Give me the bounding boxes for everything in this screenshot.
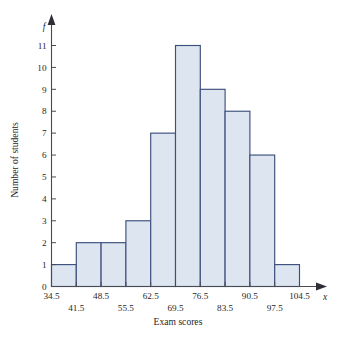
x-axis-tick-label: 104.5 bbox=[289, 291, 310, 301]
x-axis-tick-label: 41.5 bbox=[68, 303, 84, 313]
histogram-bar bbox=[225, 111, 250, 286]
exam-scores-histogram: 01234567891011 34.548.562.576.590.5104.5… bbox=[0, 0, 342, 337]
histogram-figure: 01234567891011 34.548.562.576.590.5104.5… bbox=[0, 0, 342, 337]
x-axis-tick-labels-lower: 41.555.569.583.597.5 bbox=[68, 303, 283, 313]
y-axis-arrow-icon bbox=[48, 14, 56, 25]
y-axis-tick-label: 3 bbox=[42, 216, 47, 226]
x-axis-tick-label: 97.5 bbox=[267, 303, 283, 313]
y-axis-tick-label: 8 bbox=[42, 106, 47, 116]
y-axis-tick-label: 6 bbox=[42, 150, 47, 160]
histogram-bar bbox=[126, 221, 151, 287]
y-axis-tick-label: 2 bbox=[42, 238, 47, 248]
x-axis-variable-label: x bbox=[322, 292, 328, 302]
histogram-bar bbox=[52, 265, 77, 287]
x-axis-title: Exam scores bbox=[154, 316, 203, 327]
x-axis-tick-labels-upper: 34.548.562.576.590.5104.5 bbox=[43, 291, 310, 301]
y-axis-tick-label: 7 bbox=[42, 128, 47, 138]
x-axis-tick-label: 34.5 bbox=[43, 291, 59, 301]
y-axis-tick-labels: 01234567891011 bbox=[37, 41, 47, 292]
histogram-bar bbox=[176, 46, 201, 287]
histogram-bar bbox=[250, 155, 275, 286]
x-axis-tick-label: 90.5 bbox=[242, 291, 258, 301]
y-axis-tick-label: 1 bbox=[42, 260, 47, 270]
x-axis-tick-label: 69.5 bbox=[167, 303, 183, 313]
histogram-bar bbox=[76, 243, 101, 287]
histogram-bar bbox=[200, 89, 225, 286]
x-axis-tick-label: 48.5 bbox=[93, 291, 109, 301]
x-axis-tick-label: 83.5 bbox=[217, 303, 233, 313]
histogram-bar bbox=[275, 265, 300, 287]
x-axis-arrow-icon bbox=[316, 283, 327, 291]
y-axis-tick-label: 4 bbox=[42, 194, 47, 204]
x-axis-tick-label: 62.5 bbox=[143, 291, 159, 301]
x-axis-tick-label: 76.5 bbox=[192, 291, 208, 301]
y-axis-ticks bbox=[52, 46, 57, 265]
y-axis-tick-label: 11 bbox=[38, 41, 47, 51]
y-axis-tick-label: 10 bbox=[37, 63, 47, 73]
y-axis-title: Number of students bbox=[9, 122, 20, 198]
histogram-bars bbox=[52, 46, 300, 287]
y-axis-variable-label: f bbox=[43, 22, 47, 32]
histogram-bar bbox=[101, 243, 126, 287]
y-axis-tick-label: 5 bbox=[42, 172, 47, 182]
histogram-bar bbox=[151, 133, 176, 286]
x-axis-tick-label: 55.5 bbox=[118, 303, 134, 313]
y-axis-tick-label: 9 bbox=[42, 85, 47, 95]
